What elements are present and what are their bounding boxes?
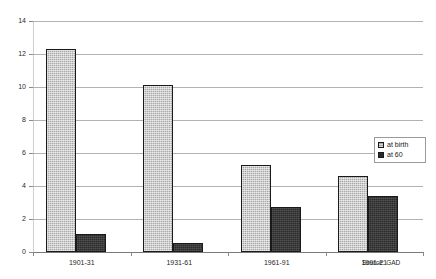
y-axis-tick-mark (29, 54, 33, 55)
source-note: Source: GAD (362, 259, 400, 266)
chart-legend: at birth at 60 (374, 137, 426, 163)
x-axis-tick-label: 1961-91 (228, 258, 326, 267)
y-axis-line (33, 21, 34, 252)
y-axis-tick-label: 10 (0, 83, 26, 91)
bar-chart: 02468101214 1901-311931-611961-911991-21… (0, 0, 436, 279)
x-axis-tick-mark (33, 252, 34, 256)
legend-label-at-birth: at birth (387, 141, 408, 149)
y-axis-tick-label: 14 (0, 17, 26, 25)
y-axis-tick-label: 6 (0, 149, 26, 157)
legend-item-at-birth: at birth (378, 140, 423, 150)
y-axis-tick-mark (29, 120, 33, 121)
bar-at-60-1931-61 (173, 243, 203, 252)
legend-label-at-60: at 60 (387, 151, 403, 159)
x-axis-tick-mark (326, 252, 327, 256)
y-axis-tick-mark (29, 186, 33, 187)
gridline (33, 153, 423, 154)
legend-swatch-at-60 (378, 152, 384, 158)
bar-at-60-1901-31 (76, 234, 106, 252)
y-axis-tick-label: 2 (0, 215, 26, 223)
bar-at-birth-1991-21 (338, 176, 368, 252)
gridline (33, 120, 423, 121)
bar-at-birth-1931-61 (143, 85, 173, 252)
y-axis-tick-mark (29, 87, 33, 88)
x-axis-tick-mark (131, 252, 132, 256)
gridline (33, 87, 423, 88)
y-axis-tick-mark (29, 219, 33, 220)
x-axis-tick-label: 1931-61 (131, 258, 229, 267)
x-axis-tick-label: 1901-31 (33, 258, 131, 267)
y-axis-tick-label: 0 (0, 248, 26, 256)
y-axis-tick-mark (29, 153, 33, 154)
x-axis-tick-mark (228, 252, 229, 256)
gridline (33, 21, 423, 22)
bar-at-birth-1901-31 (46, 49, 76, 252)
bar-at-birth-1961-91 (241, 165, 271, 252)
y-axis-tick-label: 4 (0, 182, 26, 190)
bar-at-60-1961-91 (271, 207, 301, 252)
legend-swatch-at-birth (378, 142, 384, 148)
y-axis-tick-label: 8 (0, 116, 26, 124)
y-axis-tick-mark (29, 21, 33, 22)
gridline (33, 54, 423, 55)
bar-at-60-1991-21 (368, 196, 398, 252)
y-axis-tick-label: 12 (0, 50, 26, 58)
legend-item-at-60: at 60 (378, 150, 423, 160)
x-axis-tick-mark (423, 252, 424, 256)
